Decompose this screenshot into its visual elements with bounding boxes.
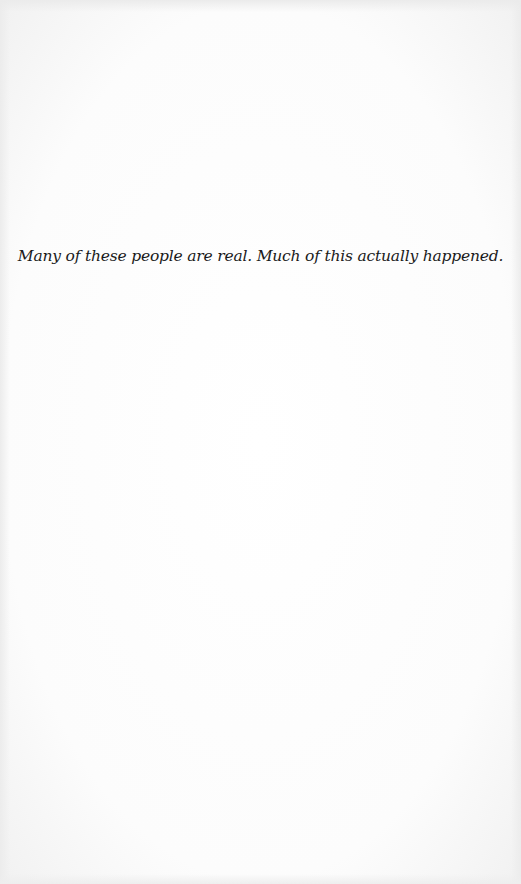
epigraph-text: Many of these people are real. Much of t… bbox=[0, 246, 521, 266]
page-edge-shadow-top bbox=[0, 0, 521, 12]
page-edge-shadow-right bbox=[511, 0, 521, 884]
page-edge-shadow-bottom bbox=[0, 874, 521, 884]
page-edge-shadow-left bbox=[0, 0, 10, 884]
book-page: Many of these people are real. Much of t… bbox=[0, 0, 521, 884]
